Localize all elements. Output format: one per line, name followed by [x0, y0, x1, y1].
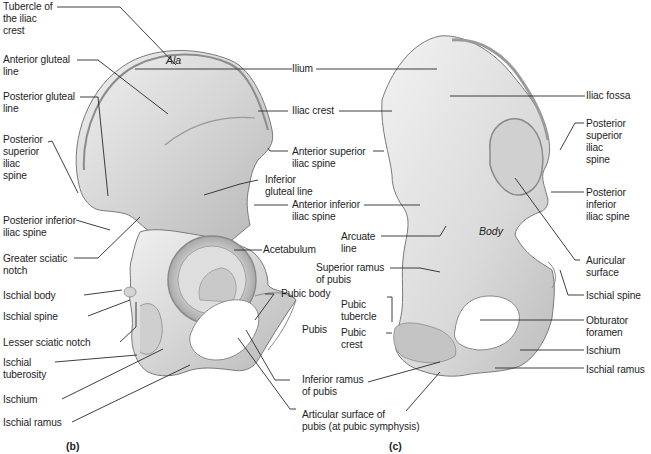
- label-posterior-superior-iliac-spine-c: Posterior superior iliac spine: [586, 118, 626, 166]
- label-ischial-ramus-b: Ischial ramus: [3, 417, 62, 429]
- label-anterior-inferior-iliac-spine: Anterior inferior iliac spine: [292, 199, 360, 223]
- label-lesser-sciatic-notch: Lesser sciatic notch: [3, 337, 90, 349]
- label-ischial-spine-b: Ischial spine: [3, 311, 58, 323]
- region-label-body: Body: [479, 225, 503, 237]
- label-anterior-superior-iliac-spine: Anterior superior iliac spine: [292, 146, 366, 170]
- label-posterior-inferior-iliac-spine-c: Posterior inferior iliac spine: [586, 187, 630, 223]
- label-inferior-ramus-of-pubis: Inferior ramus of pubis: [302, 374, 363, 398]
- label-auricular-surface: Auricular surface: [586, 255, 625, 279]
- panel-caption-c: (c): [389, 440, 402, 452]
- label-ischial-body: Ischial body: [3, 290, 56, 302]
- label-pubic-body: Pubic body: [281, 288, 330, 300]
- label-iliac-fossa: Iliac fossa: [586, 90, 630, 102]
- lateral-hip-bone: [76, 51, 296, 376]
- label-acetabulum: Acetabulum: [263, 244, 316, 256]
- label-superior-ramus-of-pubis: Superior ramus of pubis: [316, 262, 384, 286]
- label-ilium: Ilium: [292, 63, 313, 75]
- label-pubic-tubercle: Pubic tubercle: [341, 299, 376, 323]
- label-ischial-spine-c: Ischial spine: [586, 290, 641, 302]
- label-ischial-tuberosity: Ischial tuberosity: [3, 357, 46, 381]
- label-ischial-ramus-c: Ischial ramus: [586, 364, 645, 376]
- label-iliac-crest: Iliac crest: [292, 105, 334, 117]
- label-tubercle-iliac-crest: Tubercle of the iliac crest: [3, 1, 52, 37]
- label-obturator-foramen: Obturator foramen: [586, 315, 628, 339]
- label-inferior-gluteal-line: Inferior gluteal line: [265, 174, 313, 198]
- label-posterior-gluteal-line: Posterior gluteal line: [3, 91, 75, 115]
- label-ischium-b: Ischium: [3, 394, 37, 406]
- label-ischium-c: Ischium: [586, 345, 620, 357]
- label-pubic-crest: Pubic crest: [341, 327, 366, 351]
- medial-hip-bone: [382, 36, 556, 376]
- label-posterior-superior-iliac-spine-b: Posterior superior iliac spine: [3, 134, 43, 182]
- label-arcuate-line: Arcuate line: [341, 231, 375, 255]
- label-posterior-inferior-iliac-spine-b: Posterior inferior iliac spine: [3, 215, 76, 239]
- label-anterior-gluteal-line: Anterior gluteal line: [3, 54, 70, 78]
- panel-caption-b: (b): [66, 440, 79, 452]
- region-label-ala: Ala: [166, 54, 181, 66]
- label-articular-surface: Articular surface of pubis (at pubic sym…: [302, 409, 419, 433]
- label-pubis: Pubis: [302, 324, 327, 336]
- label-greater-sciatic-notch: Greater sciatic notch: [3, 253, 67, 277]
- hip-bone-figure: Ala Body Tubercle of the iliac crest Ant…: [0, 0, 651, 454]
